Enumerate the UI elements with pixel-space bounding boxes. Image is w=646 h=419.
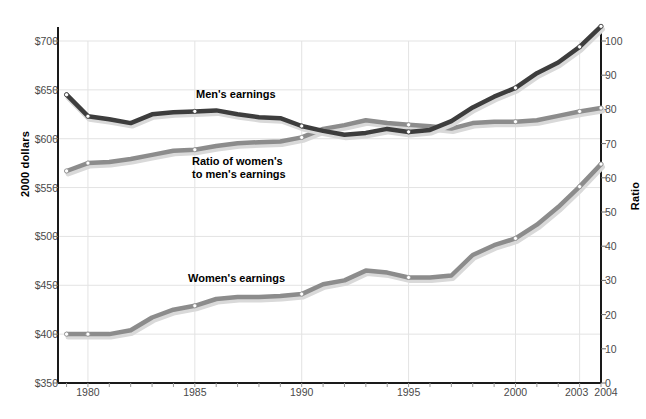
- series-line: [67, 164, 601, 334]
- data-point-marker: [406, 275, 410, 279]
- chart-container: 2000 dollars Ratio $350$400$450$500$550$…: [0, 0, 646, 419]
- series-shadow: [68, 167, 602, 337]
- data-point-marker: [513, 120, 517, 124]
- data-point-marker: [406, 130, 410, 134]
- series-women-s-earnings: [64, 162, 603, 337]
- data-point-marker: [86, 114, 90, 118]
- data-point-marker: [300, 292, 304, 296]
- data-point-marker: [300, 124, 304, 128]
- data-point-marker: [86, 161, 90, 165]
- series-label-ratio: Ratio of women's to men's earnings: [192, 155, 286, 181]
- series-label-womens-earnings: Women's earnings: [188, 272, 285, 285]
- data-point-marker: [578, 184, 582, 188]
- data-point-marker: [193, 148, 197, 152]
- data-point-marker: [406, 123, 410, 127]
- data-point-marker: [64, 169, 68, 173]
- data-point-marker: [300, 135, 304, 139]
- data-point-marker: [64, 93, 68, 97]
- data-point-marker: [599, 24, 603, 28]
- plot-area: [0, 0, 646, 419]
- data-point-marker: [193, 304, 197, 308]
- data-point-marker: [578, 45, 582, 49]
- series-line: [67, 26, 601, 135]
- data-point-marker: [64, 332, 68, 336]
- series-label-ratio-line1: Ratio of women's: [192, 155, 283, 167]
- data-point-marker: [513, 86, 517, 90]
- data-point-marker: [599, 162, 603, 166]
- series-label-mens-earnings: Men's earnings: [196, 88, 276, 101]
- data-point-marker: [193, 109, 197, 113]
- series-lines: [64, 24, 603, 337]
- data-point-marker: [86, 332, 90, 336]
- series-label-ratio-line2: to men's earnings: [192, 168, 286, 180]
- data-point-marker: [578, 109, 582, 113]
- data-point-marker: [599, 106, 603, 110]
- data-point-marker: [513, 236, 517, 240]
